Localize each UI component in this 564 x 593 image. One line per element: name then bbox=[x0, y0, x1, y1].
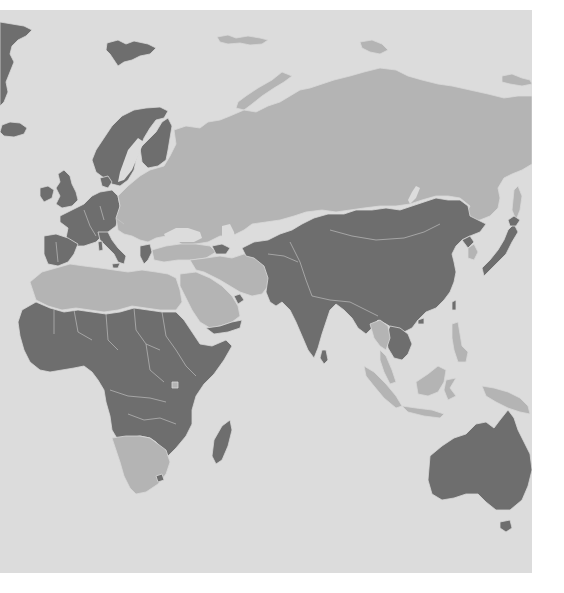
region-new-guinea[interactable] bbox=[482, 386, 530, 414]
region-hokkaido[interactable] bbox=[508, 216, 520, 226]
region-iceland[interactable] bbox=[0, 122, 27, 137]
region-central-south-east-asia[interactable] bbox=[242, 198, 486, 358]
region-madagascar[interactable] bbox=[212, 420, 232, 464]
region-philippines[interactable] bbox=[452, 322, 468, 362]
region-indochina[interactable] bbox=[386, 326, 412, 360]
region-sumatra[interactable] bbox=[364, 366, 402, 408]
region-lesotho[interactable] bbox=[156, 474, 164, 482]
region-svalbard[interactable] bbox=[106, 40, 156, 66]
region-sicily[interactable] bbox=[112, 263, 120, 268]
choropleth-map[interactable] bbox=[0, 10, 532, 573]
region-tasmania[interactable] bbox=[500, 520, 512, 532]
region-uk[interactable] bbox=[56, 170, 78, 208]
region-sri-lanka[interactable] bbox=[320, 350, 328, 364]
region-taiwan[interactable] bbox=[452, 300, 456, 310]
region-sub-saharan-africa[interactable] bbox=[18, 302, 232, 456]
region-new-siberian-islands[interactable] bbox=[502, 74, 532, 86]
region-north-africa[interactable] bbox=[30, 264, 182, 312]
region-rwanda-burundi[interactable] bbox=[172, 382, 178, 388]
region-australia[interactable] bbox=[428, 410, 532, 510]
region-sardinia[interactable] bbox=[98, 241, 103, 251]
region-sulawesi[interactable] bbox=[444, 378, 456, 400]
region-sakhalin[interactable] bbox=[512, 186, 522, 220]
region-java[interactable] bbox=[402, 406, 444, 418]
region-greece[interactable] bbox=[140, 244, 152, 264]
region-borneo[interactable] bbox=[416, 366, 446, 396]
region-greenland[interactable] bbox=[0, 22, 32, 106]
map-frame bbox=[0, 10, 532, 573]
region-ireland[interactable] bbox=[40, 186, 54, 202]
region-japan[interactable] bbox=[482, 224, 518, 276]
region-severnaya-zemlya[interactable] bbox=[360, 40, 388, 54]
region-franz-josef-land[interactable] bbox=[217, 35, 268, 45]
